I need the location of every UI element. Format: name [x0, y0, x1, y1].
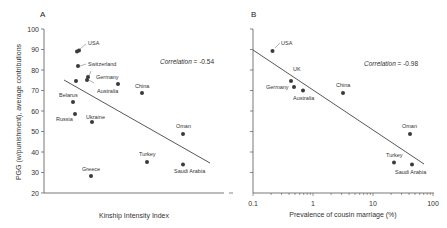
panel-b-regression-line — [253, 50, 424, 164]
panel-a: A PGG (w/punishment), average contributi… — [15, 10, 224, 220]
point-label: Greece — [82, 166, 100, 172]
point-label: USA — [88, 40, 100, 46]
y-tick-label: 20 — [31, 190, 39, 197]
data-point — [116, 82, 120, 86]
panel-b-x-tick-labels: 0.1 1 10 100 — [248, 200, 439, 207]
panel-a-letter: A — [40, 10, 46, 19]
data-point-saudi-arabia — [181, 163, 185, 167]
point-label: Russia — [56, 116, 74, 122]
point-label: Switzerland — [88, 61, 116, 67]
data-point — [77, 49, 81, 53]
point-label: Australia — [293, 95, 315, 101]
panel-a-y-ticks — [41, 29, 44, 193]
y-tick-label: 70 — [31, 87, 39, 94]
figure: A PGG (w/punishment), average contributi… — [0, 0, 447, 228]
panel-b: B — [229, 10, 439, 219]
panel-b-letter: B — [251, 10, 256, 19]
data-point-germany — [292, 85, 296, 89]
point-label: UK — [293, 66, 301, 72]
point-label: Germany — [96, 74, 119, 80]
leader-line — [275, 43, 280, 48]
data-point-turkey — [392, 161, 396, 165]
x-tick-label: 10 — [369, 200, 377, 207]
panel-b-y-ticks — [250, 29, 253, 173]
point-label: Germany — [266, 84, 289, 90]
point-label: Australia — [97, 88, 119, 94]
y-tick-label: 100 — [27, 26, 39, 33]
point-label: USA — [281, 40, 293, 46]
panel-a-y-tick-labels: 100 90 80 70 60 50 40 30 20 — [27, 26, 39, 197]
x-tick-label: 100 — [427, 200, 439, 207]
data-point-russia — [73, 112, 77, 116]
data-point-uk — [289, 79, 293, 83]
y-tick-label: 30 — [31, 169, 39, 176]
y-tick-label: 60 — [31, 108, 39, 115]
data-point-china — [341, 91, 345, 95]
data-point-china — [140, 91, 144, 95]
point-label: Turkey — [386, 152, 403, 158]
data-point-oman — [181, 132, 185, 136]
data-point-switzerland — [76, 64, 80, 68]
point-label: Oman — [402, 123, 417, 129]
point-label: Ukraine — [86, 114, 105, 120]
point-label: China — [135, 83, 150, 89]
y-tick-label: 90 — [31, 46, 39, 53]
point-label: Saudi Arabia — [395, 169, 427, 175]
data-point-usa — [271, 49, 275, 53]
y-tick-label: 80 — [31, 67, 39, 74]
data-point — [74, 79, 78, 83]
data-point-saudi-arabia — [410, 163, 414, 167]
data-point-greece — [89, 174, 93, 178]
y-tick-label: 40 — [31, 149, 39, 156]
data-point-belarus — [71, 100, 75, 104]
data-point-oman — [408, 132, 412, 136]
panel-a-regression-line — [64, 80, 210, 163]
x-tick-label: 1 — [311, 200, 315, 207]
panel-a-correlation: Correlation = -0.54 — [160, 58, 214, 65]
point-label: Turkey — [139, 151, 156, 157]
x-tick-label: 0.1 — [248, 200, 258, 207]
panel-b-x-axis-title: Prevalence of cousin marriage (%) — [289, 211, 396, 219]
panel-b-correlation: Correlation = -0.98 — [364, 60, 418, 67]
data-point-australia — [301, 89, 305, 93]
point-label: China — [336, 82, 351, 88]
point-label: Belarus — [59, 92, 78, 98]
point-label: Saudi Arabia — [174, 168, 206, 174]
panel-a-y-axis-title: PGG (w/punishment), average contribution… — [15, 43, 23, 180]
y-tick-label: 50 — [31, 128, 39, 135]
panel-a-x-axis-title: Kinship Intensity Index — [99, 212, 170, 220]
point-label: Oman — [176, 123, 191, 129]
data-point-australia — [85, 78, 89, 82]
data-point-ukraine — [90, 120, 94, 124]
panel-b-x-ticks — [253, 193, 433, 196]
data-point-turkey — [145, 160, 149, 164]
